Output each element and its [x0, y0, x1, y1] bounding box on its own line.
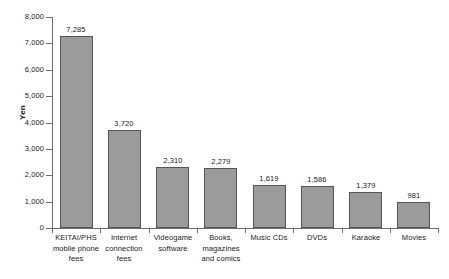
- x-category-label-line: fees: [52, 254, 100, 265]
- bar: [301, 186, 334, 228]
- x-category-label: Karaoke: [342, 233, 390, 244]
- bar-value-label: 1,379: [336, 181, 396, 190]
- x-category-label-line: Internet: [100, 233, 148, 244]
- x-category-label-line: fees: [100, 254, 148, 265]
- x-category-label-line: and comics: [197, 254, 245, 265]
- bar: [253, 185, 286, 228]
- x-category-label-line: Karaoke: [342, 233, 390, 244]
- x-category-label-line: mobile phone: [52, 244, 100, 255]
- bar: [60, 36, 93, 228]
- bar-value-label: 7,285: [46, 25, 106, 34]
- x-category-label: Videogamesoftware: [149, 233, 197, 254]
- bar-chart: Yen 01,0002,0003,0004,0005,0006,0007,000…: [0, 0, 449, 279]
- y-tick-mark: [46, 17, 52, 18]
- y-tick-label: 6,000: [0, 65, 44, 74]
- y-tick-mark: [46, 202, 52, 203]
- bar: [349, 192, 382, 228]
- x-category-label-line: Videogame: [149, 233, 197, 244]
- y-tick-mark: [46, 175, 52, 176]
- bar-value-label: 3,720: [94, 119, 154, 128]
- bar: [108, 130, 141, 228]
- x-category-label: Movies: [390, 233, 438, 244]
- bar: [156, 167, 189, 228]
- y-tick-mark: [46, 70, 52, 71]
- y-tick-label: 2,000: [0, 170, 44, 179]
- x-category-label: Music CDs: [245, 233, 293, 244]
- y-tick-mark: [46, 96, 52, 97]
- x-category-label-line: DVDs: [293, 233, 341, 244]
- y-tick-label: 7,000: [0, 38, 44, 47]
- y-tick-label: 1,000: [0, 197, 44, 206]
- x-category-label-line: software: [149, 244, 197, 255]
- y-tick-label: 4,000: [0, 118, 44, 127]
- x-category-label-line: Books,: [197, 233, 245, 244]
- x-category-label-line: Movies: [390, 233, 438, 244]
- y-tick-mark: [46, 123, 52, 124]
- y-axis-line: [52, 17, 53, 229]
- x-category-label-line: Music CDs: [245, 233, 293, 244]
- x-category-label-line: KEITAI/PHS: [52, 233, 100, 244]
- x-tick-mark: [438, 228, 439, 233]
- y-tick-mark: [46, 43, 52, 44]
- bar-value-label: 981: [384, 191, 444, 200]
- y-tick-mark: [46, 149, 52, 150]
- x-category-label: KEITAI/PHSmobile phonefees: [52, 233, 100, 265]
- x-category-label-line: connection: [100, 244, 148, 255]
- bar: [397, 202, 430, 228]
- x-category-label: Books,magazinesand comics: [197, 233, 245, 265]
- x-category-label-line: magazines: [197, 244, 245, 255]
- bar-value-label: 2,279: [191, 157, 251, 166]
- x-category-label: Internetconnectionfees: [100, 233, 148, 265]
- y-tick-label: 5,000: [0, 91, 44, 100]
- y-tick-label: 3,000: [0, 144, 44, 153]
- y-tick-label: 8,000: [0, 12, 44, 21]
- y-tick-label: 0: [0, 223, 44, 232]
- bar: [204, 168, 237, 228]
- x-category-label: DVDs: [293, 233, 341, 244]
